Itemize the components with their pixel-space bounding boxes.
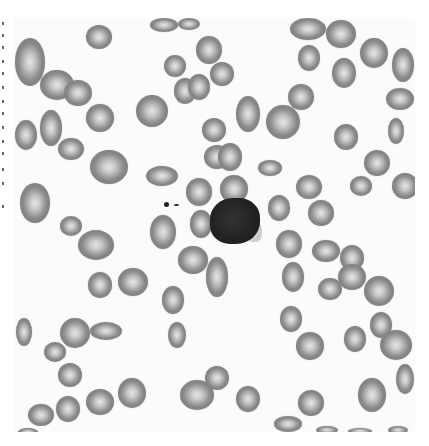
red-blood-cell (236, 386, 260, 412)
red-blood-cell (282, 262, 304, 292)
red-blood-cell (150, 18, 178, 32)
red-blood-cell (392, 173, 415, 199)
red-blood-cell (206, 257, 228, 297)
edge-mark (2, 100, 4, 103)
red-blood-cell (20, 183, 50, 223)
red-blood-cell (60, 216, 82, 236)
red-blood-cell (118, 268, 148, 296)
red-blood-cell (86, 389, 114, 415)
red-blood-cell (58, 363, 82, 387)
edge-mark (2, 182, 4, 185)
edge-mark (2, 60, 4, 63)
red-blood-cell (168, 322, 186, 348)
micrograph-frame (0, 0, 429, 446)
red-blood-cell (380, 330, 412, 360)
red-blood-cell (350, 176, 372, 196)
red-blood-cell (392, 48, 414, 82)
red-blood-cell (308, 200, 334, 226)
red-blood-cell (64, 80, 92, 106)
red-blood-cell (334, 124, 358, 150)
edge-mark (2, 22, 4, 25)
red-blood-cell (364, 150, 390, 176)
red-blood-cell (86, 104, 114, 132)
red-blood-cell (218, 143, 242, 171)
red-blood-cell (18, 428, 38, 432)
edge-mark (2, 46, 4, 49)
red-blood-cell (290, 18, 326, 40)
red-blood-cell (178, 246, 208, 274)
edge-mark (2, 72, 4, 75)
red-blood-cell (268, 195, 290, 221)
red-blood-cell (40, 110, 62, 146)
red-blood-cell (58, 138, 84, 160)
edge-mark (2, 86, 4, 89)
red-blood-cell (312, 240, 340, 262)
edge-mark (2, 205, 4, 208)
red-blood-cell (28, 404, 54, 426)
red-blood-cell (190, 210, 212, 238)
red-blood-cell (326, 20, 356, 48)
red-blood-cell (386, 88, 414, 110)
red-blood-cell (88, 272, 112, 298)
red-blood-cell (162, 286, 184, 314)
red-blood-cell (56, 396, 80, 422)
blood-smear-field (14, 18, 415, 432)
red-blood-cell (388, 118, 404, 144)
red-blood-cell (274, 416, 302, 432)
red-blood-cell (344, 326, 366, 352)
red-blood-cell (118, 378, 146, 408)
red-blood-cell (358, 378, 386, 412)
edge-mark (2, 112, 4, 115)
red-blood-cell (210, 62, 234, 86)
red-blood-cell (146, 166, 178, 186)
red-blood-cell (236, 96, 260, 132)
lymphocyte-white-blood-cell (210, 198, 260, 244)
red-blood-cell (90, 322, 122, 340)
debris-speck (174, 204, 179, 206)
edge-mark (2, 126, 4, 129)
red-blood-cell (150, 215, 176, 249)
red-blood-cell (164, 55, 186, 77)
edge-mark (2, 152, 4, 155)
red-blood-cell (318, 278, 342, 300)
edge-mark (2, 168, 4, 171)
red-blood-cell (296, 175, 322, 199)
red-blood-cell (16, 318, 32, 346)
red-blood-cell (188, 74, 210, 100)
edge-mark (2, 34, 4, 37)
red-blood-cell (196, 36, 222, 64)
red-blood-cell (60, 318, 90, 348)
red-blood-cell (178, 18, 200, 30)
red-blood-cell (136, 95, 168, 127)
red-blood-cell (316, 426, 338, 432)
red-blood-cell (90, 150, 128, 184)
red-blood-cell (298, 390, 324, 416)
red-blood-cell (258, 160, 282, 176)
red-blood-cell (298, 45, 320, 71)
red-blood-cell (396, 364, 414, 394)
red-blood-cell (266, 105, 300, 139)
red-blood-cell (205, 366, 229, 390)
red-blood-cell (296, 332, 324, 360)
red-blood-cell (338, 264, 366, 290)
red-blood-cell (276, 230, 302, 258)
red-blood-cell (78, 230, 114, 260)
red-blood-cell (186, 178, 212, 206)
debris-speck (164, 202, 169, 207)
red-blood-cell (360, 38, 388, 68)
red-blood-cell (332, 58, 356, 88)
red-blood-cell (348, 428, 372, 432)
red-blood-cell (388, 426, 408, 432)
red-blood-cell (288, 84, 314, 110)
red-blood-cell (280, 306, 302, 332)
red-blood-cell (202, 118, 226, 142)
edge-mark (2, 140, 4, 143)
red-blood-cell (15, 120, 37, 150)
red-blood-cell (44, 342, 66, 362)
red-blood-cell (364, 276, 394, 306)
red-blood-cell (86, 25, 112, 49)
